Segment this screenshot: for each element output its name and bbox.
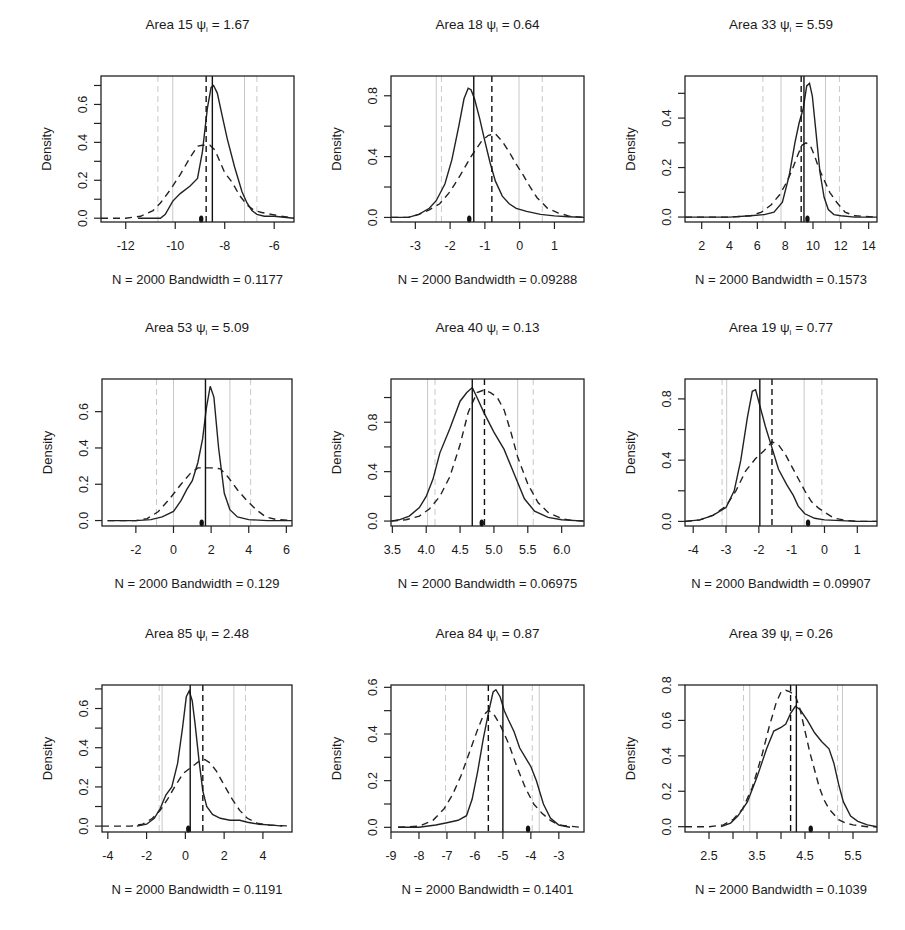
y-tick-label: 0.0: [76, 209, 90, 226]
y-axis-label: Density: [40, 736, 55, 780]
x-tick-label: 4: [245, 543, 252, 557]
x-tick-label: 8: [782, 239, 789, 253]
y-tick-label: 0.6: [77, 700, 91, 717]
y-tick-label: 0.0: [660, 513, 674, 530]
y-tick-label: 0.8: [660, 390, 674, 407]
x-tick-label: -4: [688, 543, 699, 557]
density-panel-2: Area 18 ψi = 0.64-3-2-1010.00.40.8Densit…: [329, 17, 584, 287]
y-tick-label: 0.4: [77, 739, 91, 756]
y-tick-label: 0.0: [77, 512, 91, 529]
y-tick-label: 0.4: [76, 134, 90, 151]
x-tick-label: -3: [410, 239, 421, 253]
y-tick-label: 0.6: [660, 712, 674, 729]
y-tick-label: 0.2: [77, 778, 91, 795]
density-panel-3: Area 33 ψi = 5.5924681012140.00.20.4Dens…: [623, 17, 877, 287]
prior-density-curve: [398, 711, 581, 828]
x-tick-label: -2: [130, 543, 141, 557]
panel-title: Area 39 ψi = 0.26: [729, 626, 833, 643]
y-tick-label: 0.2: [660, 159, 674, 176]
x-tick-label: 14: [862, 239, 876, 253]
prior-density-curve: [101, 145, 294, 218]
y-tick-label: 0.6: [77, 403, 91, 420]
prior-density-curve: [391, 134, 584, 218]
y-tick-label: 0.2: [77, 476, 91, 493]
panel-title: Area 19 ψi = 0.77: [729, 320, 833, 337]
y-axis-label: Density: [329, 430, 344, 474]
plot-frame: [391, 685, 584, 832]
y-axis-label: Density: [329, 736, 344, 780]
density-panel-1: Area 15 ψi = 1.67-12-10-8-60.00.20.40.6D…: [39, 17, 294, 287]
x-axis-sublabel: N = 2000 Bandwidth = 0.1177: [112, 272, 283, 287]
x-tick-label: -1: [479, 239, 490, 253]
x-tick-label: -4: [525, 849, 536, 863]
prior-density-curve: [391, 390, 584, 521]
y-axis-label: Density: [39, 127, 54, 171]
x-tick-label: 3.5: [384, 543, 401, 557]
x-tick-label: -2: [445, 239, 456, 253]
x-tick-label: -3: [720, 543, 731, 557]
x-tick-label: 5.0: [485, 543, 502, 557]
x-tick-label: 2.5: [700, 849, 717, 863]
x-tick-label: 0: [821, 543, 828, 557]
x-tick-label: -8: [219, 239, 230, 253]
posterior-density-curve: [391, 88, 584, 217]
y-tick-label: 0.0: [77, 817, 91, 834]
y-tick-label: 0.4: [660, 451, 674, 468]
x-tick-label: 0: [516, 239, 523, 253]
y-tick-label: 0.8: [366, 414, 380, 431]
y-tick-label: 0.0: [660, 208, 674, 225]
panel-title: Area 15 ψi = 1.67: [145, 17, 249, 34]
density-panel-5: Area 40 ψi = 0.133.54.04.55.05.56.00.00.…: [329, 320, 584, 591]
x-tick-label: 4.5: [451, 543, 468, 557]
x-tick-label: -6: [269, 239, 280, 253]
x-axis-sublabel: N = 2000 Bandwidth = 0.1191: [111, 882, 282, 897]
x-tick-label: 2: [698, 239, 705, 253]
density-panel-4: Area 53 ψi = 5.09-202460.00.20.40.6Densi…: [40, 320, 292, 591]
y-tick-label: 0.6: [76, 96, 90, 113]
x-tick-label: -1: [786, 543, 797, 557]
panel-title: Area 18 ψi = 0.64: [435, 17, 540, 34]
x-tick-label: -9: [385, 849, 396, 863]
panel-title: Area 40 ψi = 0.13: [435, 320, 539, 337]
x-axis-sublabel: N = 2000 Bandwidth = 0.129: [115, 576, 280, 591]
x-tick-label: -2: [753, 543, 764, 557]
y-axis-label: Density: [40, 430, 55, 474]
y-tick-label: 0.6: [366, 679, 380, 696]
y-tick-label: 0.0: [660, 818, 674, 835]
plot-frame: [391, 76, 584, 222]
x-tick-label: -7: [441, 849, 452, 863]
x-tick-label: 12: [834, 239, 848, 253]
density-figure: Area 15 ψi = 1.67-12-10-8-60.00.20.40.6D…: [0, 0, 905, 930]
x-tick-label: -6: [469, 849, 480, 863]
x-tick-label: 0: [182, 849, 189, 863]
x-tick-label: 10: [806, 239, 820, 253]
posterior-density-curve: [685, 390, 877, 522]
x-tick-label: 3.5: [748, 849, 765, 863]
posterior-density-curve: [398, 690, 570, 828]
y-tick-label: 0.8: [660, 676, 674, 693]
x-tick-label: 2: [208, 543, 215, 557]
x-tick-label: 1: [551, 239, 558, 253]
panel-title: Area 53 ψi = 5.09: [145, 320, 249, 337]
x-tick-label: -3: [553, 849, 564, 863]
y-tick-label: 0.2: [660, 783, 674, 800]
x-axis-sublabel: N = 2000 Bandwidth = 0.1039: [695, 882, 867, 897]
posterior-density-curve: [138, 86, 294, 219]
posterior-density-curve: [108, 386, 292, 520]
y-axis-label: Density: [623, 736, 638, 780]
prior-density-curve: [102, 760, 292, 827]
y-tick-label: 0.4: [77, 439, 91, 456]
x-axis-sublabel: N = 2000 Bandwidth = 0.1401: [401, 882, 573, 897]
plot-frame: [391, 379, 584, 526]
panel-title: Area 84 ψi = 0.87: [435, 626, 539, 643]
y-axis-label: Density: [329, 127, 344, 171]
x-axis-sublabel: N = 2000 Bandwidth = 0.1573: [695, 272, 867, 287]
plot-frame: [101, 76, 294, 222]
y-tick-label: 0.4: [660, 747, 674, 764]
x-axis-sublabel: N = 2000 Bandwidth = 0.09907: [691, 576, 870, 591]
y-tick-label: 0.2: [76, 172, 90, 189]
y-tick-label: 0.0: [366, 209, 380, 226]
y-tick-label: 0.0: [366, 512, 380, 529]
y-tick-label: 0.4: [660, 109, 674, 126]
x-tick-label: 6: [283, 543, 290, 557]
